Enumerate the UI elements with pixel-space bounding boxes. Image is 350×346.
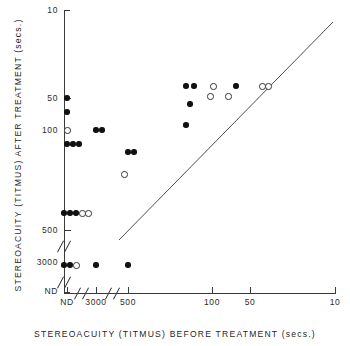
y-axis-break-upper-1 xyxy=(57,241,64,253)
x-tick-label-100: 100 xyxy=(192,298,232,307)
x-axis-title: STEREOACUITY (TITMUS) BEFORE TREATMENT (… xyxy=(0,329,350,339)
data-point-filled xyxy=(131,149,136,154)
x-tick-nd xyxy=(67,287,68,294)
x-tick-label-10: 10 xyxy=(315,298,350,307)
data-point-filled xyxy=(125,262,130,267)
y-tick-label-50: 50 xyxy=(18,94,58,103)
data-point-filled xyxy=(67,262,72,267)
data-point-open xyxy=(265,83,271,89)
data-point-filled xyxy=(93,262,98,267)
data-point-filled xyxy=(70,141,75,146)
data-point-open xyxy=(73,262,79,268)
data-point-filled xyxy=(187,101,192,106)
x-tick-100 xyxy=(212,287,213,294)
y-axis-top-cap xyxy=(64,10,70,11)
data-point-filled xyxy=(93,127,98,132)
data-point-open xyxy=(225,93,231,99)
data-point-filled xyxy=(183,122,188,127)
y-tick-label-500: 500 xyxy=(18,226,58,235)
data-point-filled xyxy=(99,127,104,132)
data-point-filled xyxy=(61,210,66,215)
data-point-open xyxy=(207,93,213,99)
y-axis-title: STEREOACUITY (TITMUS) AFTER TREATMENT (s… xyxy=(13,10,23,300)
y-tick-label-100: 100 xyxy=(18,126,58,135)
x-tick-3000 xyxy=(96,287,97,294)
data-point-filled xyxy=(64,109,69,114)
data-point-filled xyxy=(67,210,72,215)
data-point-open xyxy=(210,83,216,89)
y-tick-label-3000: 3000 xyxy=(18,258,58,267)
y-tick-label-10: 10 xyxy=(18,6,58,15)
x-tick-label-500: 500 xyxy=(108,298,148,307)
data-point-filled xyxy=(183,83,188,88)
data-point-filled xyxy=(61,262,66,267)
x-tick-500 xyxy=(128,287,129,294)
data-point-open xyxy=(121,171,127,177)
y-tick-label-nd: ND xyxy=(18,287,58,296)
data-point-filled xyxy=(76,141,81,146)
scatter-plot-figure: 10 50 100 500 3000 ND ND 3000 500 100 50… xyxy=(0,0,350,346)
x-tick-50 xyxy=(250,287,251,294)
y-axis-break-upper-2 xyxy=(64,241,71,253)
data-point-filled xyxy=(233,83,238,88)
data-point-open xyxy=(64,127,70,133)
data-point-filled xyxy=(73,210,78,215)
y-tick-500 xyxy=(64,230,71,231)
x-axis-right-cap xyxy=(335,287,336,294)
x-axis-line xyxy=(64,293,336,294)
x-tick-label-50: 50 xyxy=(230,298,270,307)
data-point-filled xyxy=(64,95,69,100)
data-point-filled xyxy=(125,149,130,154)
data-point-open xyxy=(85,210,91,216)
y-axis-break-lower-1 xyxy=(57,277,64,289)
data-point-filled xyxy=(64,141,69,146)
data-point-filled xyxy=(191,83,196,88)
